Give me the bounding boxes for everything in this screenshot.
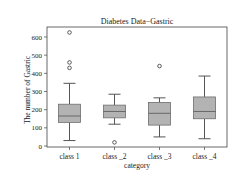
y-tick-label: 300 — [32, 88, 43, 96]
x-tick-label: class 1 — [59, 152, 79, 161]
y-tick-label: 600 — [32, 34, 43, 42]
box-3 — [149, 64, 171, 137]
x-tick-label: class _4 — [193, 152, 217, 161]
boxes — [59, 31, 216, 145]
outlier-point — [113, 141, 117, 145]
iqr-box — [149, 102, 171, 125]
plot-frame — [47, 27, 227, 147]
box-plot-chart: Diabetes Data−Gastric 010020030040050060… — [0, 0, 239, 176]
y-tick-label: 100 — [32, 124, 43, 132]
chart-title: Diabetes Data−Gastric — [101, 17, 174, 26]
iqr-box — [59, 104, 81, 122]
x-tick-label: class _2 — [103, 152, 127, 161]
y-tick-label: 500 — [32, 52, 43, 60]
outlier-point — [158, 64, 162, 68]
box-2 — [104, 94, 126, 144]
outlier-point — [68, 66, 72, 70]
x-tick-label: class _3 — [148, 152, 172, 161]
box-4 — [194, 76, 216, 139]
iqr-box — [194, 97, 216, 119]
outlier-point — [68, 61, 72, 65]
y-tick-label: 200 — [32, 106, 43, 114]
x-axis: class 1class _2class _3class _4 — [59, 147, 216, 161]
y-tick-label: 400 — [32, 70, 43, 78]
box-1 — [59, 31, 81, 141]
y-axis-label: The number of Gastric — [23, 55, 32, 124]
outlier-point — [68, 31, 72, 35]
y-tick-label: 0 — [39, 143, 43, 151]
x-axis-label: category — [124, 161, 150, 170]
y-axis: 0100200300400500600 — [32, 34, 48, 151]
